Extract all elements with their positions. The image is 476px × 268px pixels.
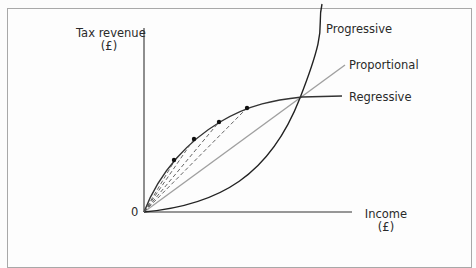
progressive-label: Progressive	[326, 23, 392, 36]
x-axis-label: Income (£)	[360, 208, 412, 234]
regressive-label: Regressive	[349, 91, 411, 104]
origin-label: 0	[131, 206, 138, 219]
proportional-label: Proportional	[349, 59, 419, 72]
x-axis-label-line2: (£)	[360, 221, 412, 234]
proportional-line	[144, 65, 345, 212]
y-axis-label-line2: (£)	[76, 40, 142, 53]
dashed-rays	[144, 108, 247, 212]
progressive-curve	[144, 4, 322, 212]
regressive-points	[172, 106, 249, 162]
regressive-curve	[144, 96, 342, 212]
y-axis-label: Tax revenue (£)	[76, 27, 142, 53]
